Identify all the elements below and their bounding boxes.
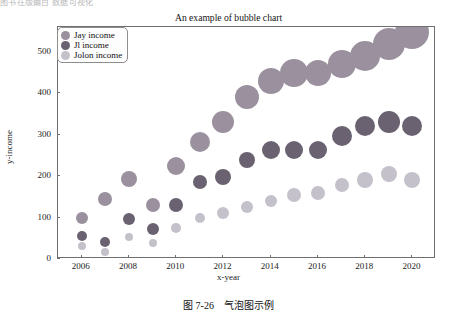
bubble-point <box>77 231 87 241</box>
x-axis-tick-label: 2018 <box>344 261 384 271</box>
x-axis-tick-label: 2014 <box>250 261 290 271</box>
y-axis-tick-mark <box>57 217 60 218</box>
bubble-chart-figure: An example of bubble chart 0100200300400… <box>0 0 457 320</box>
bubble-point <box>378 111 400 133</box>
bubble-point <box>121 171 137 187</box>
x-axis-tick-label: 2016 <box>297 261 337 271</box>
bubble-point <box>169 198 183 212</box>
legend-swatch-icon <box>61 41 70 50</box>
bubble-point <box>193 175 207 189</box>
bubble-point <box>402 116 422 136</box>
chart-legend[interactable]: Jay incomeJl incomeJolon income <box>57 27 128 63</box>
y-axis-tick-label: 300 <box>23 129 51 139</box>
bubble-point <box>212 111 234 133</box>
y-axis-tick-label: 500 <box>23 46 51 56</box>
x-axis-tick-mark <box>175 255 176 258</box>
x-axis-tick-mark <box>317 255 318 258</box>
bubble-point <box>171 223 181 233</box>
bubble-point <box>311 186 325 200</box>
y-axis-tick-label: 0 <box>23 253 51 263</box>
bubble-point <box>265 195 277 207</box>
x-axis-tick-mark <box>222 255 223 258</box>
bubble-point <box>98 192 112 206</box>
bubble-point <box>78 242 86 250</box>
bubble-point <box>125 233 133 241</box>
y-axis-tick-mark <box>57 92 60 93</box>
x-axis-tick-mark <box>364 255 365 258</box>
bubble-point <box>309 141 327 159</box>
legend-item-label: Jolon income <box>74 50 122 60</box>
bubble-point <box>217 207 229 219</box>
bubble-point <box>149 239 157 247</box>
bubble-point <box>100 237 110 247</box>
x-axis-tick-mark <box>128 255 129 258</box>
figure-caption: 图 7-26气泡图示例 <box>0 297 457 312</box>
bubble-point <box>381 166 397 182</box>
legend-item-jl-income[interactable]: Jl income <box>61 40 122 50</box>
legend-item-label: Jl income <box>74 40 109 50</box>
legend-item-jolon-income[interactable]: Jolon income <box>61 50 122 60</box>
legend-item-jay-income[interactable]: Jay income <box>61 30 122 40</box>
bubble-point <box>332 126 352 146</box>
bubble-point <box>101 248 109 256</box>
legend-item-label: Jay income <box>74 30 115 40</box>
bubble-point <box>235 85 259 109</box>
legend-swatch-icon <box>61 51 70 60</box>
y-axis-label: y-income <box>4 130 14 164</box>
x-axis-tick-mark <box>411 255 412 258</box>
bubble-point <box>123 213 135 225</box>
bubble-point <box>262 141 280 159</box>
x-axis-tick-mark <box>81 255 82 258</box>
bubble-point <box>215 169 231 185</box>
y-axis-tick-mark <box>57 175 60 176</box>
bubble-point <box>285 141 303 159</box>
legend-swatch-icon <box>61 31 70 40</box>
bubble-point <box>146 198 160 212</box>
x-axis-tick-label: 2008 <box>108 261 148 271</box>
bubble-point <box>195 213 205 223</box>
y-axis-tick-label: 100 <box>23 212 51 222</box>
bubble-point <box>355 116 375 136</box>
bubble-point <box>357 172 373 188</box>
bubble-point <box>241 201 253 213</box>
y-axis-tick-mark <box>57 258 60 259</box>
x-axis-tick-label: 2006 <box>61 261 101 271</box>
x-axis-label: x-year <box>0 272 457 282</box>
bubble-point <box>335 178 349 192</box>
bubble-point <box>167 157 185 175</box>
bubble-point <box>239 152 255 168</box>
bubble-point <box>76 212 88 224</box>
x-axis-tick-label: 2012 <box>202 261 242 271</box>
x-axis-tick-label: 2020 <box>391 261 431 271</box>
y-axis-tick-label: 200 <box>23 170 51 180</box>
y-axis-tick-mark <box>57 134 60 135</box>
figure-caption-number: 图 7-26 <box>183 300 214 311</box>
y-axis-tick-label: 400 <box>23 87 51 97</box>
bubble-point <box>190 132 210 152</box>
chart-title: An example of bubble chart <box>0 12 457 23</box>
figure-caption-text: 气泡图示例 <box>224 300 274 311</box>
x-axis-tick-mark <box>270 255 271 258</box>
x-axis-tick-label: 2010 <box>155 261 195 271</box>
bubble-point <box>287 188 301 202</box>
bubble-point <box>147 223 159 235</box>
bubble-point <box>404 172 420 188</box>
